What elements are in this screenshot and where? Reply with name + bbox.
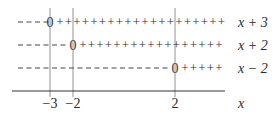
factor-label: x + 3 [237, 15, 268, 30]
tick-label-1: −2 [66, 96, 81, 111]
tick-label-2: 2 [172, 96, 179, 111]
factor-label: x − 2 [237, 61, 268, 76]
plus-sign: + [147, 37, 154, 52]
plus-sign: + [96, 37, 103, 52]
plus-sign: + [209, 14, 216, 29]
plus-sign: + [175, 14, 182, 29]
plus-sign: + [82, 14, 89, 29]
plus-sign: + [184, 14, 191, 29]
plus-sign: + [201, 14, 208, 29]
plus-sign: + [190, 37, 197, 52]
plus-sign: + [190, 60, 197, 75]
zero-marker: 0 [47, 15, 54, 30]
plus-sign: + [107, 14, 114, 29]
plus-sign: + [139, 37, 146, 52]
plus-sign: + [133, 14, 140, 29]
plus-sign: + [173, 37, 180, 52]
sign-chart: 0++++++++++++++++++++x + 30+++++++++++++… [0, 0, 275, 120]
plus-sign: + [158, 14, 165, 29]
plus-sign: + [215, 60, 222, 75]
plus-sign: + [198, 60, 205, 75]
plus-sign: + [65, 14, 72, 29]
tick-label-0: −3 [43, 96, 58, 111]
plus-sign: + [215, 37, 222, 52]
plus-sign: + [79, 37, 86, 52]
plus-sign: + [181, 60, 188, 75]
plus-sign: + [181, 37, 188, 52]
plus-sign: + [218, 14, 225, 29]
plus-sign: + [130, 37, 137, 52]
factor-label: x + 2 [237, 38, 268, 53]
plus-sign: + [164, 37, 171, 52]
plus-sign: + [207, 37, 214, 52]
plus-sign: + [116, 14, 123, 29]
plus-sign: + [105, 37, 112, 52]
plus-sign: + [167, 14, 174, 29]
plus-sign: + [122, 37, 129, 52]
plus-sign: + [150, 14, 157, 29]
plus-sign: + [192, 14, 199, 29]
axis-label: x [237, 96, 245, 111]
plus-sign: + [90, 14, 97, 29]
plus-sign: + [156, 37, 163, 52]
plus-sign: + [56, 14, 63, 29]
plus-sign: + [124, 14, 131, 29]
plus-sign: + [207, 60, 214, 75]
zero-marker: 0 [172, 61, 179, 76]
plus-sign: + [73, 14, 80, 29]
plus-sign: + [99, 14, 106, 29]
plus-sign: + [198, 37, 205, 52]
zero-marker: 0 [70, 38, 77, 53]
plus-sign: + [141, 14, 148, 29]
plus-sign: + [88, 37, 95, 52]
plus-sign: + [113, 37, 120, 52]
